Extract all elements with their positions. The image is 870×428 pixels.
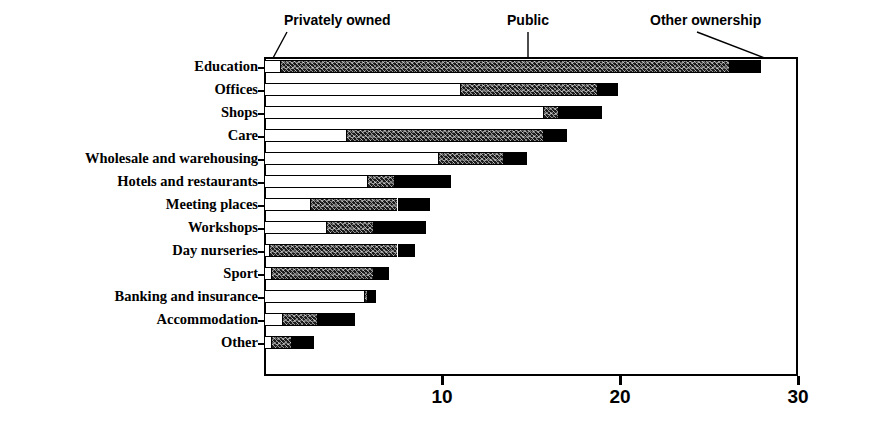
x-tick-label-20: 20 (609, 386, 630, 408)
y-tick-1 (258, 90, 265, 92)
category-axis-labels: Education Offices Shops Care Wholesale a… (0, 57, 258, 376)
bar-segment-hotels-and-restaurants-other (394, 175, 451, 188)
bar-segment-education-private (264, 60, 280, 73)
bar-segment-banking-and-insurance-private (264, 290, 364, 303)
category-label-education: Education (0, 59, 258, 73)
bar-segment-offices-private (264, 83, 460, 96)
y-tick-3 (258, 136, 265, 138)
category-label-offices: Offices (0, 82, 258, 96)
x-tick-20 (619, 376, 622, 385)
stacked-bar-chart: Privately owned Public Other ownership E… (0, 0, 870, 428)
bar-segment-accommodation-public (282, 313, 318, 326)
bar-wholesale-and-warehousing (264, 152, 527, 165)
bar-accommodation (264, 313, 355, 326)
bar-segment-workshops-other (373, 221, 426, 234)
bar-banking-and-insurance (264, 290, 376, 303)
bar-segment-shops-private (264, 106, 543, 119)
bar-segment-meeting-places-other (398, 198, 430, 211)
x-tick-10 (441, 376, 444, 385)
bar-segment-offices-public (460, 83, 597, 96)
bar-segment-care-other (543, 129, 566, 142)
bar-segment-accommodation-other (317, 313, 354, 326)
bar-workshops (264, 221, 426, 234)
bar-segment-day-nurseries-other (398, 244, 416, 257)
bar-day-nurseries (264, 244, 415, 257)
y-tick-10 (258, 297, 265, 299)
bar-segment-sport-other (373, 267, 389, 280)
y-tick-8 (258, 251, 265, 253)
bar-segment-workshops-public (326, 221, 372, 234)
category-label-other: Other (0, 335, 258, 349)
plot-area (264, 57, 798, 376)
bar-segment-education-other (729, 60, 761, 73)
y-tick-7 (258, 228, 265, 230)
bar-segment-other-other (291, 336, 314, 349)
bar-segment-hotels-and-restaurants-private (264, 175, 367, 188)
bar-offices (264, 83, 618, 96)
y-tick-11 (258, 320, 265, 322)
category-label-shops: Shops (0, 105, 258, 119)
bar-segment-offices-other (597, 83, 618, 96)
category-label-workshops: Workshops (0, 220, 258, 234)
bar-segment-meeting-places-private (264, 198, 310, 211)
y-tick-0 (258, 67, 265, 69)
y-tick-6 (258, 205, 265, 207)
x-tick-30 (797, 376, 800, 385)
bar-other (264, 336, 314, 349)
y-tick-12 (258, 343, 265, 345)
bar-segment-sport-private (264, 267, 271, 280)
category-label-banking-and-insurance: Banking and insurance (0, 289, 258, 303)
bar-segment-care-private (264, 129, 346, 142)
bar-segment-other-public (271, 336, 291, 349)
bar-meeting-places (264, 198, 430, 211)
bar-education (264, 60, 761, 73)
bar-hotels-and-restaurants (264, 175, 451, 188)
y-tick-5 (258, 182, 265, 184)
category-label-wholesale-and-warehousing: Wholesale and warehousing (0, 151, 258, 165)
category-label-sport: Sport (0, 266, 258, 280)
x-tick-label-10: 10 (431, 386, 452, 408)
bar-sport (264, 267, 389, 280)
bar-segment-sport-public (271, 267, 372, 280)
bar-segment-day-nurseries-public (269, 244, 397, 257)
y-tick-4 (258, 159, 265, 161)
x-tick-label-30: 30 (787, 386, 808, 408)
bar-segment-banking-and-insurance-other (367, 290, 376, 303)
category-label-hotels-and-restaurants: Hotels and restaurants (0, 174, 258, 188)
category-label-accommodation: Accommodation (0, 312, 258, 326)
bar-segment-education-public (280, 60, 729, 73)
bar-segment-wholesale-and-warehousing-other (503, 152, 528, 165)
bar-segment-other-private (264, 336, 271, 349)
bar-segment-hotels-and-restaurants-public (367, 175, 394, 188)
bar-segment-shops-other (558, 106, 603, 119)
y-tick-9 (258, 274, 265, 276)
bar-shops (264, 106, 602, 119)
bar-segment-workshops-private (264, 221, 326, 234)
category-label-meeting-places: Meeting places (0, 197, 258, 211)
category-label-day-nurseries: Day nurseries (0, 243, 258, 257)
bar-segment-shops-public (543, 106, 557, 119)
bar-care (264, 129, 567, 142)
bar-segment-meeting-places-public (310, 198, 397, 211)
bar-segment-wholesale-and-warehousing-private (264, 152, 438, 165)
bar-segment-care-public (346, 129, 544, 142)
category-label-care: Care (0, 128, 258, 142)
bar-segment-accommodation-private (264, 313, 282, 326)
y-tick-2 (258, 113, 265, 115)
bar-segment-wholesale-and-warehousing-public (438, 152, 502, 165)
